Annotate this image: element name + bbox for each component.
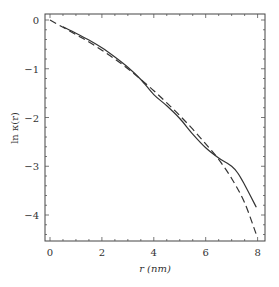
x-axis-label: r (nm)	[139, 263, 171, 274]
y-tick-labels: 0−1−2−3−4	[24, 15, 39, 221]
y-tick-label: −3	[24, 161, 39, 172]
y-tick-label: 0	[33, 15, 39, 26]
y-tick-label: −4	[24, 210, 39, 221]
y-tick-label: −1	[24, 64, 39, 75]
x-tick-label: 2	[99, 247, 105, 258]
series-dashed-line	[50, 20, 256, 235]
x-tick-label: 6	[203, 247, 209, 258]
chart: 02468 0−1−2−3−4 r (nm) ln κ(r)	[0, 0, 279, 287]
ticks	[45, 14, 265, 241]
y-tick-label: −2	[24, 113, 39, 124]
x-tick-label: 4	[151, 247, 157, 258]
y-axis-label: ln κ(r)	[9, 112, 20, 144]
series-solid-line	[63, 27, 256, 207]
x-tick-label: 0	[47, 247, 53, 258]
x-tick-labels: 02468	[47, 247, 261, 258]
x-tick-label: 8	[254, 247, 260, 258]
plot-frame	[45, 14, 265, 241]
